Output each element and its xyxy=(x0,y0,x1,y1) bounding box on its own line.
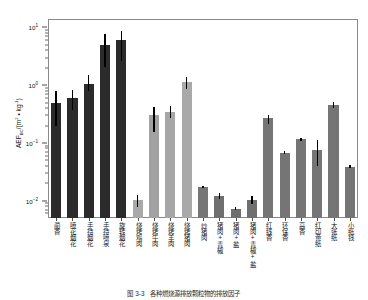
x-tick-mark xyxy=(317,218,318,221)
x-tick-mark xyxy=(350,218,351,221)
bar-rect xyxy=(84,84,94,218)
error-bar xyxy=(202,186,203,188)
x-tick-label: 烧烤猪肉 xyxy=(183,222,190,246)
error-bar xyxy=(251,196,252,204)
bar[interactable] xyxy=(67,98,77,218)
x-tick-label: 烧烤牛肉 xyxy=(151,222,158,246)
x-tick-mark xyxy=(334,218,335,221)
x-tick-mark xyxy=(154,218,155,221)
x-tick-label: 手持烟花 xyxy=(86,222,93,246)
error-bar xyxy=(333,102,334,108)
error-bar xyxy=(284,151,285,154)
error-bar xyxy=(186,77,187,89)
x-tick-mark xyxy=(203,218,204,221)
bar-rect xyxy=(100,45,110,218)
bar[interactable] xyxy=(328,105,338,218)
x-tick-mark xyxy=(301,218,302,221)
error-bar xyxy=(317,140,318,166)
error-bar xyxy=(121,31,122,62)
error-bar xyxy=(235,207,236,210)
x-tick-label: 高香 xyxy=(298,222,305,234)
error-bar xyxy=(219,193,220,199)
x-tick-mark xyxy=(170,218,171,221)
x-tick-label: 烧烤鸡肉 xyxy=(134,222,141,246)
x-tick-mark xyxy=(89,218,90,221)
bar[interactable] xyxy=(100,45,110,218)
bar-rect xyxy=(214,196,224,218)
y-tick-label: 100 xyxy=(29,81,38,89)
x-tick-mark xyxy=(252,218,253,221)
y-tick-label: 10−2 xyxy=(26,197,38,205)
bar[interactable] xyxy=(116,40,126,218)
bar-rect xyxy=(67,98,77,218)
error-bar xyxy=(88,75,89,91)
bar-rect xyxy=(182,82,192,218)
bar-rect xyxy=(116,40,126,218)
x-tick-label: 猪肉+盐 xyxy=(232,222,239,247)
error-bar xyxy=(300,138,301,141)
error-bar xyxy=(104,34,105,66)
x-tick-label: 红线香 xyxy=(265,222,272,240)
x-tick-mark xyxy=(72,218,73,221)
bar-rect xyxy=(328,105,338,218)
error-bar xyxy=(137,195,138,207)
x-tick-label: 小纸钱 xyxy=(347,222,354,240)
x-tick-label: 红印黄纸 xyxy=(314,222,321,246)
x-tick-label: 大张纸 xyxy=(330,222,337,240)
x-tick-label: 炒猪肉 xyxy=(200,222,207,240)
error-bar xyxy=(72,90,73,110)
x-tick-mark xyxy=(285,218,286,221)
x-tick-label: 蔺香 xyxy=(53,222,60,234)
x-tick-mark xyxy=(105,218,106,221)
error-bar xyxy=(268,115,269,124)
bar-rect xyxy=(165,112,175,219)
bar[interactable] xyxy=(182,82,192,218)
error-bar xyxy=(55,91,56,125)
x-tick-label: 手持喷泉 xyxy=(102,222,109,246)
x-tick-mark xyxy=(121,218,122,221)
bar-rect xyxy=(198,187,208,218)
y-axis-ticks: 10110010−110−2 xyxy=(0,0,48,300)
y-tick-mark xyxy=(42,27,47,28)
x-tick-mark xyxy=(187,218,188,221)
bar[interactable] xyxy=(84,84,94,218)
x-tick-label: 烧烤羊肉 xyxy=(167,222,174,246)
bar[interactable] xyxy=(198,187,208,218)
x-tick-mark xyxy=(219,218,220,221)
x-tick-label: 猪肉+青椒+盐 xyxy=(249,222,256,267)
x-tick-label: 环保香 xyxy=(281,222,288,240)
bar-rect xyxy=(296,139,306,218)
y-tick-mark xyxy=(42,142,47,143)
x-tick-mark xyxy=(56,218,57,221)
y-tick-mark xyxy=(42,85,47,86)
bar[interactable] xyxy=(263,118,273,218)
error-bar xyxy=(349,165,350,168)
figure-root: AEFBC/(m2 • kg-1) 10110010−110−2 蔺香喷花烟花手… xyxy=(0,0,368,300)
y-tick-mark xyxy=(42,200,47,201)
bar[interactable] xyxy=(280,153,290,218)
bar[interactable] xyxy=(296,139,306,218)
bar-rect xyxy=(345,167,355,218)
y-tick-label: 10−1 xyxy=(26,139,38,147)
x-tick-mark xyxy=(268,218,269,221)
x-tick-mark xyxy=(236,218,237,221)
bar-rect xyxy=(280,153,290,218)
error-bar xyxy=(170,106,171,119)
y-tick-label: 101 xyxy=(29,23,38,31)
x-tick-label: 旋转烟花 xyxy=(118,222,125,246)
x-tick-label: 猪肉+青椒 xyxy=(216,222,223,254)
bar[interactable] xyxy=(165,112,175,219)
x-tick-mark xyxy=(138,218,139,221)
bar[interactable] xyxy=(214,196,224,218)
bar[interactable] xyxy=(345,167,355,218)
bar-rect xyxy=(263,118,273,218)
figure-caption: 图 3-3 各种燃烧源排放颗粒物的排放因子 xyxy=(0,289,368,300)
error-bar xyxy=(153,107,154,132)
bars-layer xyxy=(48,19,358,218)
x-tick-label: 喷花烟花 xyxy=(69,222,76,246)
